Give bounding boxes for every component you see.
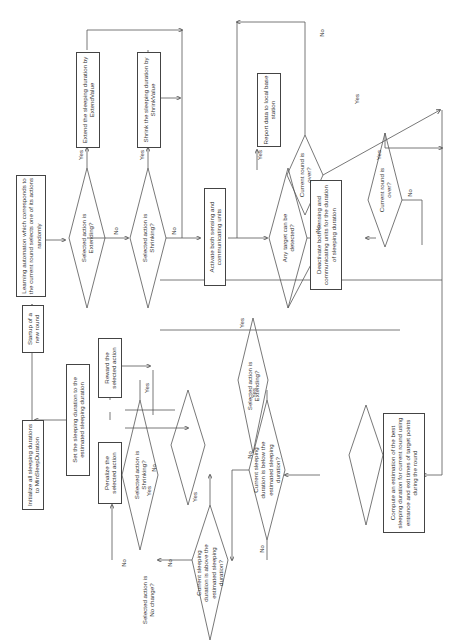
yes-label: Yes [192,492,198,502]
no-label: No [259,545,265,553]
q-extending: Selected action is Extending? [69,168,105,308]
no-label: No [315,225,321,233]
set-duration-box: Set the sleeping duration to the estimat… [66,364,90,476]
extend-text: Extend the sleeping duration by ExtendVa… [81,54,96,146]
yes-label: Yes [239,318,245,328]
no-label: No [171,227,177,235]
no-label: No [113,227,119,235]
yes-label: Yes [376,150,382,160]
q-nochange: Selected action is No change? [130,560,166,640]
q-round-over-2: Current round is over? [368,133,402,247]
q-below: Current sleeping duration is below the e… [249,400,285,540]
compute-box: Compute an estimation of the best sleepi… [383,413,425,533]
yes-label: Yes [354,94,360,104]
no-label: No [121,559,127,567]
compute-text: Compute an estimation of the best sleepi… [389,415,419,531]
activate-box: Activate both sensing and communicating … [204,188,226,286]
yes-label: Yes [144,383,150,393]
extend-box: Extend the sleeping duration by ExtendVa… [76,52,100,148]
reward-text: Reward the selected action [103,340,118,396]
q-shrinking-2: Selected action is Shrinking? [122,400,158,550]
set-duration-text: Set the sleeping duration to the estimat… [71,366,86,474]
connector-lines [0,0,464,644]
learning-text: Learning automaton which corresponds to … [20,177,42,295]
activate-text: Activate both sensing and communicating … [208,190,223,284]
q-round-over-1: Current round is over? [287,135,323,215]
startup-box: Startup of a new round [22,305,44,353]
no-label: No [167,559,173,567]
init-text: Initialize all sleeping durations to Min… [26,422,41,508]
shrink-text: Shrink the sleeping duration by ShrinkVa… [142,54,157,146]
penalize-box: Penalize the selected action [98,442,122,504]
reward-box: Reward the selected action [98,338,122,398]
report-text: Report data to local base station [262,75,277,145]
learning-box: Learning automaton which corresponds to … [16,175,46,297]
shrink-box: Shrink the sleeping duration by ShrinkVa… [137,52,161,148]
yes-label: Yes [257,150,263,160]
startup-text: Startup of a new round [26,307,41,351]
flowchart-canvas: Initialize all sleeping durations to Min… [0,0,464,644]
q-shrinking: Selected action is Shrinking? [130,168,166,308]
no-label: No [319,29,325,37]
yes-label: Yes [139,150,145,160]
yes-label: Yes [78,150,84,160]
penalize-text: Penalize the selected action [103,444,118,502]
no-label: No [247,451,253,459]
q-above: Current sleeping duration is above the e… [192,505,228,640]
yes-label: Yes [251,388,257,398]
init-box: Initialize all sleeping durations to Min… [22,420,44,510]
no-label: No [151,464,157,472]
yes-label: Yes [146,486,152,496]
report-box: Report data to local base station [257,73,281,147]
no-label: No [407,189,413,197]
